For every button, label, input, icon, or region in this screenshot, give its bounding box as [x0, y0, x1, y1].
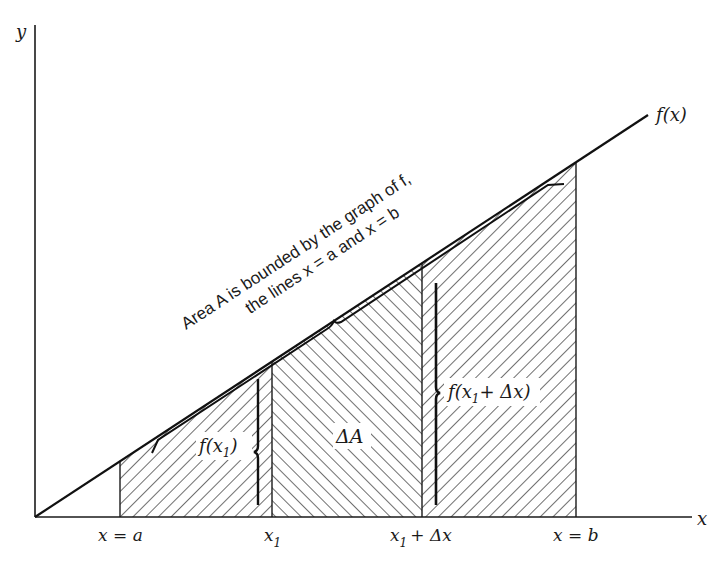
region-delta-a [272, 263, 422, 517]
delta-a-label: ΔA [335, 425, 363, 447]
region-right [422, 162, 576, 517]
tick-label-x1-dx: x1+ Δx [390, 525, 452, 550]
y-axis-label: y [15, 21, 27, 42]
x-axis-label: x [697, 508, 707, 529]
tick-label-x1: x1 [264, 525, 281, 550]
tick-label-b: x = b [553, 525, 599, 545]
tick-label-a: x = a [98, 525, 143, 545]
function-label: f(x) [654, 104, 687, 125]
area-diagram: Area A is bounded by the graph of f, the… [0, 0, 709, 562]
